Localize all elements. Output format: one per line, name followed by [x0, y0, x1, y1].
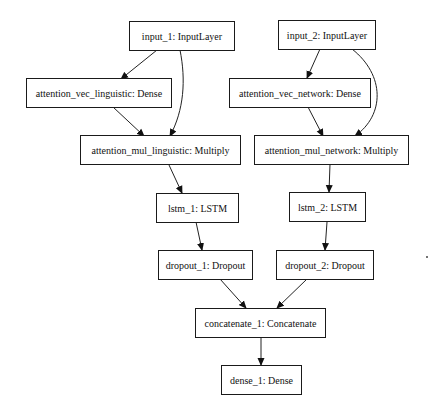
edge-input2-to-attvec-net	[307, 49, 320, 78]
stray-dot	[426, 256, 428, 258]
node-dropout-1: dropout_1: Dropout	[158, 250, 253, 280]
node-label: attention_vec_linguistic: Dense	[36, 88, 162, 99]
edge-attvec-net-to-attmul-net	[308, 107, 323, 136]
node-label: lstm_1: LSTM	[168, 203, 227, 214]
node-attention-mul-linguistic: attention_mul_linguistic: Multiply	[80, 135, 241, 165]
edge-attmul-net-to-lstm2	[329, 164, 330, 192]
node-attention-vec-network: attention_vec_network: Dense	[229, 78, 371, 108]
node-concatenate-1: concatenate_1: Concatenate	[195, 308, 326, 338]
edge-lstm2-to-dropout2	[325, 222, 327, 250]
node-label: input_2: InputLayer	[287, 30, 367, 41]
node-label: concatenate_1: Concatenate	[205, 318, 317, 329]
node-label: input_1: InputLayer	[142, 31, 222, 42]
node-lstm-2: lstm_2: LSTM	[289, 192, 366, 222]
node-label: dense_1: Dense	[230, 375, 293, 386]
node-dense-1: dense_1: Dense	[221, 365, 302, 395]
node-label: lstm_2: LSTM	[298, 202, 357, 213]
node-label: dropout_1: Dropout	[166, 260, 246, 271]
node-attention-mul-network: attention_mul_network: Multiply	[254, 135, 409, 165]
edge-attvec-ling-to-attmul-ling	[113, 107, 144, 136]
node-label: attention_mul_linguistic: Multiply	[91, 145, 229, 156]
node-label: attention_vec_network: Dense	[239, 88, 361, 99]
model-graph-diagram: input_1: InputLayer input_2: InputLayer …	[0, 0, 431, 416]
node-input-2: input_2: InputLayer	[278, 20, 376, 50]
node-lstm-1: lstm_1: LSTM	[156, 193, 239, 223]
node-dropout-2: dropout_2: Dropout	[276, 250, 374, 280]
node-attention-vec-linguistic: attention_vec_linguistic: Dense	[26, 78, 172, 108]
node-label: attention_mul_network: Multiply	[265, 145, 399, 156]
node-input-1: input_1: InputLayer	[129, 21, 235, 51]
edge-dropout2-to-concat	[277, 279, 307, 308]
edge-attmul-ling-to-lstm1	[169, 165, 182, 193]
edge-lstm1-to-dropout1	[196, 222, 202, 250]
edge-dropout1-to-concat	[220, 279, 246, 308]
edge-input1-to-attvec-ling	[121, 50, 157, 79]
node-label: dropout_2: Dropout	[285, 260, 365, 271]
